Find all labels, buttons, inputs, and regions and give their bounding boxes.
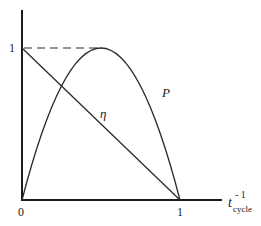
x-tick-0: 0 — [18, 205, 24, 219]
x-axis-label-superscript: - 1 — [235, 189, 246, 200]
power-label: P — [161, 85, 170, 100]
x-axis-label-subscript: cycle — [233, 204, 252, 214]
eta-label: η — [100, 106, 106, 121]
x-tick-1: 1 — [177, 205, 183, 219]
y-tick-1: 1 — [9, 41, 15, 55]
power-efficiency-diagram: 1 0 1 P η t - 1 cycle — [0, 0, 261, 226]
